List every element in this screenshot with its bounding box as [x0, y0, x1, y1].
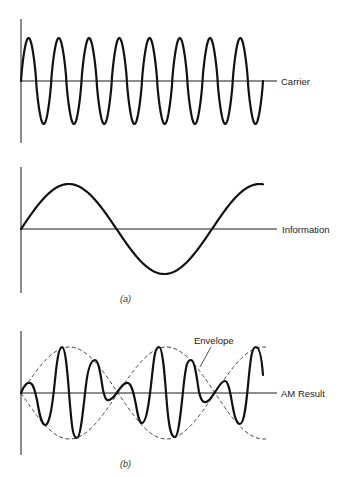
am-result-panel: Envelope AM Result: [21, 331, 325, 455]
information-label: Information: [282, 224, 330, 235]
information-panel: Information: [21, 167, 330, 293]
caption-b: (b): [120, 459, 131, 469]
envelope-label: Envelope: [194, 335, 234, 346]
caption-a: (a): [120, 294, 131, 304]
carrier-panel: Carrier: [21, 19, 310, 143]
carrier-label: Carrier: [281, 76, 310, 87]
envelope-leader-line: [200, 347, 211, 367]
am-modulation-diagram: Carrier Information (a) Envelope AM Resu…: [0, 0, 344, 477]
am-result-label: AM Result: [281, 388, 325, 399]
